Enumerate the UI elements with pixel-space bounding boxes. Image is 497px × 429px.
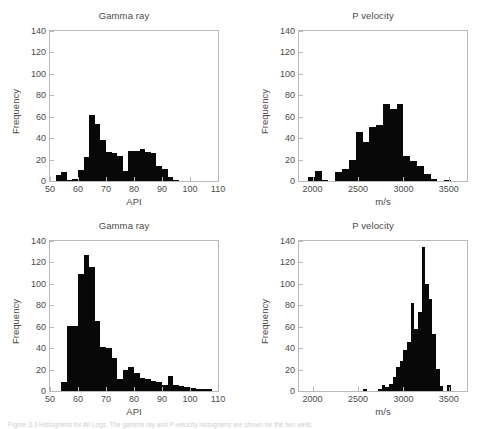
x-axis-tick-mark <box>449 177 450 181</box>
x-axis-tick-mark <box>50 387 51 391</box>
panel-p-velocity-well1: P velocity 02040608010012014020002500300… <box>249 0 497 208</box>
panel-p-velocity-well2: P velocity 02040608010012014020002500300… <box>249 210 497 418</box>
plot-area <box>50 31 218 181</box>
x-axis-tick-label: 3500 <box>439 394 459 404</box>
x-axis-tick-mark <box>162 177 163 181</box>
histogram-bar <box>444 180 451 181</box>
x-axis-tick-label: 2500 <box>348 184 368 194</box>
y-axis-tick-label: 60 <box>36 322 46 332</box>
x-axis-tick-label: 100 <box>182 184 197 194</box>
histogram-figure: Gamma ray 020406080100120140506070809010… <box>0 0 497 429</box>
x-axis-tick-mark <box>313 387 314 391</box>
y-axis-tick-mark <box>50 391 54 392</box>
y-axis-label: Frequency <box>259 262 270 382</box>
panel-title: P velocity <box>249 220 497 231</box>
histogram-bar <box>431 179 438 181</box>
y-axis-tick-label: 100 <box>280 69 295 79</box>
y-axis-tick-mark <box>50 31 54 32</box>
histogram-bars <box>50 31 218 181</box>
histogram-bar <box>390 109 397 181</box>
y-axis-tick-mark <box>299 327 303 328</box>
histogram-bar <box>417 166 424 181</box>
y-axis-tick-mark <box>50 52 54 53</box>
y-axis-tick-mark <box>299 138 303 139</box>
y-axis-label: Frequency <box>259 52 270 172</box>
x-axis-label: API <box>49 196 219 207</box>
x-axis-tick-label: 80 <box>129 394 139 404</box>
y-axis-tick-mark <box>299 74 303 75</box>
y-axis-tick-label: 0 <box>290 386 295 396</box>
histogram-bar <box>369 127 376 181</box>
x-axis-tick-label: 50 <box>45 184 55 194</box>
histogram-bars <box>299 241 467 391</box>
histogram-bar <box>424 174 431 182</box>
y-axis-tick-mark <box>50 370 54 371</box>
y-axis-tick-mark <box>50 327 54 328</box>
x-axis-tick-mark <box>358 177 359 181</box>
x-axis-tick-mark <box>403 387 404 391</box>
x-axis-tick-mark <box>106 177 107 181</box>
histogram-bar <box>315 171 322 181</box>
x-axis-tick-label: 70 <box>101 394 111 404</box>
plot-axes: 0204060801001201405060708090100110 <box>49 30 219 182</box>
x-axis-tick-label: 3000 <box>393 184 413 194</box>
y-axis-tick-mark <box>50 74 54 75</box>
histogram-bar <box>383 104 390 181</box>
histogram-bar <box>207 389 213 391</box>
y-axis-tick-label: 20 <box>285 155 295 165</box>
y-axis-tick-mark <box>299 241 303 242</box>
histogram-bar <box>356 132 363 181</box>
panel-title: Gamma ray <box>0 220 248 231</box>
y-axis-tick-label: 140 <box>31 236 46 246</box>
x-axis-tick-mark <box>134 387 135 391</box>
histogram-bar <box>308 177 315 181</box>
y-axis-tick-label: 60 <box>285 112 295 122</box>
x-axis-tick-mark <box>162 387 163 391</box>
x-axis-tick-mark <box>78 387 79 391</box>
y-axis-tick-label: 60 <box>285 322 295 332</box>
y-axis-tick-label: 0 <box>290 176 295 186</box>
y-axis-label: Frequency <box>10 262 21 382</box>
y-axis-tick-mark <box>50 241 54 242</box>
x-axis-tick-mark <box>50 177 51 181</box>
y-axis-tick-label: 40 <box>285 343 295 353</box>
y-axis-tick-label: 20 <box>285 365 295 375</box>
x-axis-tick-label: 90 <box>157 394 167 404</box>
panel-title: Gamma ray <box>0 10 248 21</box>
y-axis-tick-mark <box>50 95 54 96</box>
y-axis-tick-mark <box>299 31 303 32</box>
plot-axes: 0204060801001201405060708090100110 <box>49 240 219 392</box>
x-axis-tick-mark <box>190 177 191 181</box>
y-axis-tick-label: 40 <box>36 133 46 143</box>
y-axis-tick-label: 80 <box>285 300 295 310</box>
y-axis-tick-label: 100 <box>31 69 46 79</box>
x-axis-tick-mark <box>358 387 359 391</box>
y-axis-tick-mark <box>299 348 303 349</box>
x-axis-tick-label: 3500 <box>439 184 459 194</box>
x-axis-tick-mark <box>218 177 219 181</box>
y-axis-tick-mark <box>50 160 54 161</box>
y-axis-tick-mark <box>50 262 54 263</box>
y-axis-tick-label: 80 <box>36 300 46 310</box>
histogram-bar <box>342 169 349 181</box>
x-axis-tick-label: 60 <box>73 184 83 194</box>
histogram-bar <box>410 161 417 181</box>
histogram-bar <box>403 156 410 181</box>
y-axis-tick-label: 20 <box>36 365 46 375</box>
x-axis-tick-label: 2000 <box>303 184 323 194</box>
y-axis-label: Frequency <box>10 52 21 172</box>
x-axis-tick-mark <box>106 387 107 391</box>
y-axis-tick-mark <box>299 95 303 96</box>
x-axis-tick-mark <box>218 387 219 391</box>
histogram-bar <box>363 142 370 181</box>
y-axis-tick-mark <box>50 117 54 118</box>
x-axis-tick-mark <box>134 177 135 181</box>
y-axis-tick-mark <box>299 370 303 371</box>
x-axis-label: m/s <box>298 196 468 207</box>
x-axis-tick-label: 2500 <box>348 394 368 404</box>
y-axis-tick-mark <box>50 138 54 139</box>
y-axis-tick-mark <box>299 160 303 161</box>
plot-axes: 0204060801001201402000250030003500 <box>298 30 468 182</box>
histogram-bars <box>50 241 218 391</box>
y-axis-tick-mark <box>299 181 303 182</box>
